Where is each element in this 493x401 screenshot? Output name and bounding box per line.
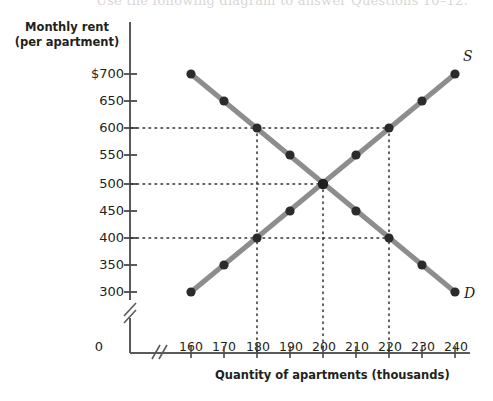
equilibrium-point-marker [318, 179, 328, 189]
guide-lines-horizontal [131, 128, 389, 238]
supply-demand-chart: Use the following diagram to answer Ques… [0, 0, 493, 401]
plot-area [0, 0, 493, 401]
guide-lines-vertical [257, 128, 389, 352]
